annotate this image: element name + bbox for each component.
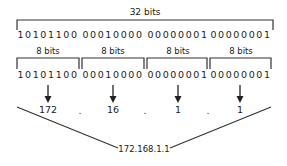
octet-2-bits: 00010000 — [82, 69, 143, 80]
dot-separator: . — [206, 105, 209, 116]
full-bits-octet-2: 00010000 — [82, 29, 143, 40]
converge-line-left — [17, 107, 118, 148]
octet-4-size-label: 8 bits — [229, 46, 253, 56]
arrow-down-icon — [45, 85, 52, 103]
result-ip-address: 172.168.1.1 — [118, 144, 169, 154]
converge-line-right — [170, 107, 271, 148]
arrow-down-icon — [110, 85, 117, 103]
ip-address-diagram: 32 bits 10101100 00010000 00000001 00000… — [0, 0, 287, 166]
dot-separator: . — [143, 105, 146, 116]
full-bits-octet-3: 00000001 — [147, 29, 208, 40]
dot-separator: . — [78, 105, 81, 116]
octet-3-decimal: 1 — [175, 104, 181, 115]
arrow-down-icon — [175, 85, 182, 103]
full-bits-row: 10101100 00010000 00000001 00000001 — [17, 29, 271, 40]
octet-1-decimal: 172 — [39, 104, 57, 115]
octet-2-size-label: 8 bits — [101, 46, 125, 56]
bracket-octet-4 — [210, 58, 271, 69]
total-bits-label: 32 bits — [130, 7, 161, 17]
full-bits-octet-4: 00000001 — [210, 29, 271, 40]
octet-2-decimal: 16 — [107, 104, 119, 115]
octet-1-bits: 10101100 — [17, 69, 78, 80]
bracket-octet-3 — [147, 58, 207, 69]
octet-4-decimal: 1 — [237, 104, 243, 115]
octet-1-size-label: 8 bits — [36, 46, 60, 56]
arrow-down-icon — [237, 85, 244, 103]
octet-4-bits: 00000001 — [210, 69, 271, 80]
octet-3-size-label: 8 bits — [166, 46, 190, 56]
bracket-octet-1 — [17, 58, 79, 69]
octet-3-bits: 00000001 — [147, 69, 208, 80]
full-bits-octet-1: 10101100 — [17, 29, 78, 40]
bracket-octet-2 — [82, 58, 144, 69]
